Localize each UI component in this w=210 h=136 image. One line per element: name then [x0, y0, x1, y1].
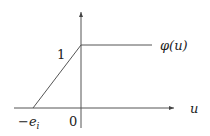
x-axis-label: u [190, 101, 198, 116]
x-tick-zero: 0 [69, 114, 77, 129]
function-label: φ(u) [160, 38, 188, 53]
function-plot: u φ(u) 1 0 −ei [0, 0, 210, 136]
y-tick-one: 1 [57, 47, 65, 62]
x-tick-neg-e: −ei [18, 114, 40, 131]
